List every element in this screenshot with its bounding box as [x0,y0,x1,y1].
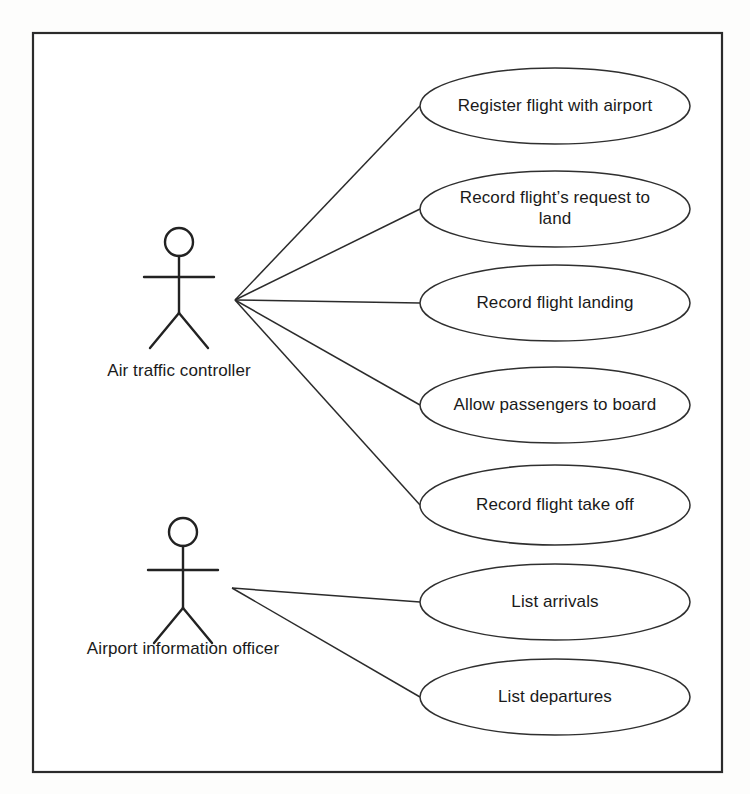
actor-head-icon [169,518,197,546]
actor-label-airport-information-officer: Airport information officer [0,638,366,659]
use-case-ellipse-list-departures[interactable] [420,659,690,735]
use-case-ellipse-record-flight-landing[interactable] [420,265,690,341]
use-case-ellipse-list-arrivals[interactable] [420,564,690,640]
use-case-ellipse-record-flight-request-to-land[interactable] [420,171,690,247]
use-case-diagram: · · · · · · · · · · · · · · · · · · · · … [0,0,750,794]
use-case-ellipse-register-flight-with-airport[interactable] [420,68,690,144]
diagram-canvas [0,0,750,794]
use-case-ellipse-allow-passengers-to-board[interactable] [420,367,690,443]
use-case-ellipse-record-flight-take-off[interactable] [420,465,690,545]
actor-label-air-traffic-controller: Air traffic controller [0,360,358,381]
actor-head-icon [165,228,193,256]
